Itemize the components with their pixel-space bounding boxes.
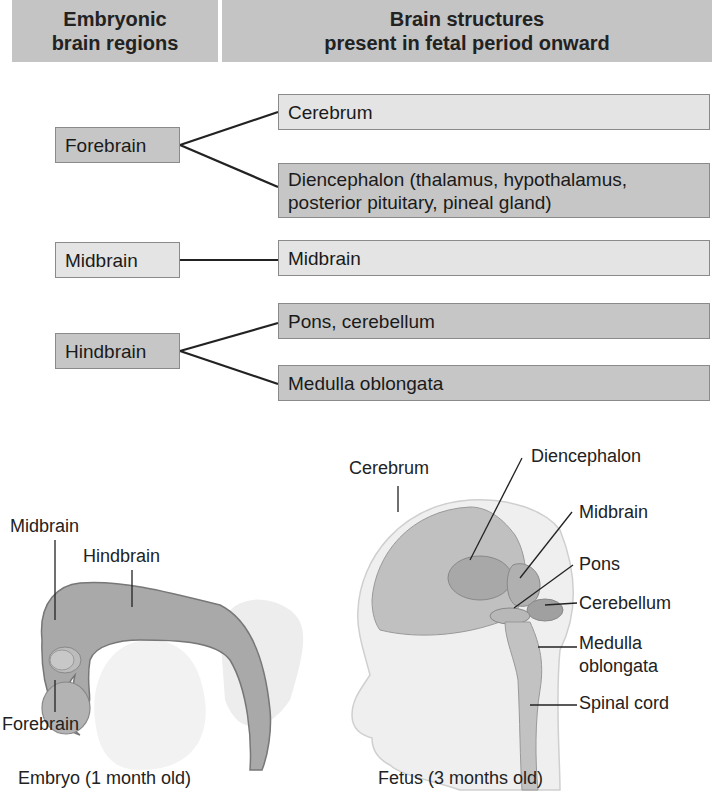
- structure-medulla: Medulla oblongata: [278, 365, 710, 401]
- embryo-label-forebrain: Forebrain: [2, 714, 79, 735]
- structure-pons-cerebellum: Pons, cerebellum: [278, 303, 710, 339]
- region-midbrain: Midbrain: [55, 242, 180, 278]
- fetus-label-oblongata: oblongata: [579, 656, 658, 677]
- structure-medulla-label: Medulla oblongata: [288, 372, 443, 395]
- fetus-label-spinal-cord: Spinal cord: [579, 693, 669, 714]
- fetus-label-medulla: Medulla: [579, 633, 642, 654]
- connector-lines: [180, 112, 278, 384]
- embryo-label-hindbrain: Hindbrain: [83, 546, 160, 567]
- region-forebrain-label: Forebrain: [65, 134, 146, 157]
- structure-pons-label: Pons, cerebellum: [288, 310, 435, 333]
- fetus-label-diencephalon: Diencephalon: [531, 446, 641, 467]
- structure-midbrain-label: Midbrain: [288, 247, 361, 270]
- structure-cerebrum-label: Cerebrum: [288, 101, 372, 124]
- region-hindbrain-label: Hindbrain: [65, 340, 146, 363]
- region-midbrain-label: Midbrain: [65, 249, 138, 272]
- diencephalon-line2: posterior pituitary, pineal gland): [288, 191, 627, 214]
- region-hindbrain: Hindbrain: [55, 333, 180, 369]
- diencephalon-line1: Diencephalon (thalamus, hypothalamus,: [288, 168, 627, 191]
- embryo-label-midbrain: Midbrain: [10, 516, 79, 537]
- embryo-caption: Embryo (1 month old): [18, 768, 191, 789]
- structure-diencephalon: Diencephalon (thalamus, hypothalamus,pos…: [278, 163, 710, 218]
- structure-midbrain: Midbrain: [278, 240, 710, 276]
- fetus-label-pons: Pons: [579, 554, 620, 575]
- fetus-illustration: [352, 500, 573, 790]
- embryo-illustration: [42, 582, 304, 770]
- fetus-label-cerebrum: Cerebrum: [349, 458, 429, 479]
- fetus-label-midbrain: Midbrain: [579, 502, 648, 523]
- region-forebrain: Forebrain: [55, 127, 180, 163]
- fetus-label-cerebellum: Cerebellum: [579, 593, 671, 614]
- fetus-caption: Fetus (3 months old): [378, 768, 543, 789]
- structure-cerebrum: Cerebrum: [278, 94, 710, 130]
